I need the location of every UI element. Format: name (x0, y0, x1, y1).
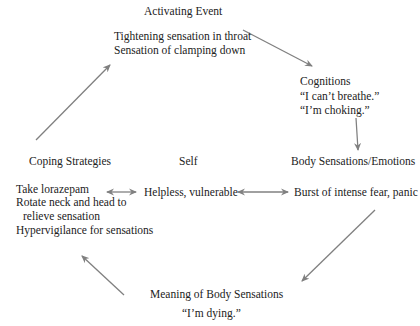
coping-line-2: Rotate neck and head to (16, 195, 127, 209)
arrow-cognitions-to-body (356, 118, 358, 150)
cognitions-line-1: “I can’t breathe.” (300, 89, 379, 103)
meaning-line-1: “I’m dying.” (182, 306, 241, 320)
arrow-meaning-to-coping (82, 256, 124, 295)
self-line-1: Helpless, vulnerable (144, 185, 238, 199)
arrow-coping-to-event (36, 65, 110, 140)
self-heading: Self (179, 154, 198, 168)
coping-line-3: relieve sensation (23, 209, 100, 223)
arrow-body-to-meaning (302, 210, 375, 281)
coping-line-1: Take lorazepam (16, 182, 89, 196)
activating-event-line-2: Sensation of clamping down (114, 43, 245, 57)
meaning-heading: Meaning of Body Sensations (150, 287, 283, 301)
coping-heading: Coping Strategies (29, 154, 111, 168)
activating-event-heading: Activating Event (144, 4, 222, 18)
cognitions-line-2: “I’m choking.” (300, 103, 370, 117)
coping-line-4: Hypervigilance for sensations (16, 223, 153, 237)
activating-event-line-1: Tightening sensation in throat (114, 29, 251, 43)
body-sensations-heading: Body Sensations/Emotions (291, 154, 415, 168)
cognitions-heading: Cognitions (300, 74, 350, 88)
arrow-event-to-cognitions (243, 30, 312, 66)
body-sensations-line-1: Burst of intense fear, panic (294, 185, 418, 199)
